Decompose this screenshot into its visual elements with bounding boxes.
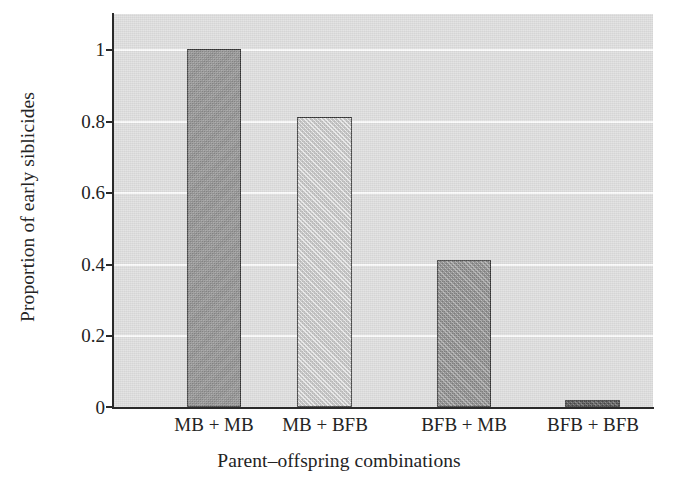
- y-axis-spine: [112, 13, 114, 409]
- y-axis-title: Proportion of early siblicides: [17, 42, 39, 372]
- x-axis-title: Parent–offspring combinations: [0, 450, 678, 472]
- bar-bfb-mb: [437, 260, 491, 407]
- x-axis-spine: [112, 407, 654, 409]
- plot-area: [113, 14, 653, 407]
- bar-chart-figure: Proportion of early siblicides 0 0.2 0.4…: [0, 0, 678, 496]
- y-tick-label-0_4: 0.4: [59, 255, 105, 274]
- bar-mb-mb: [187, 49, 241, 407]
- y-tick-label-0_2: 0.2: [59, 326, 105, 345]
- bar-bfb-bfb: [565, 400, 620, 407]
- bar-mb-bfb: [297, 117, 352, 407]
- y-axis-tick-labels: 0 0.2 0.4 0.6 0.8 1: [57, 0, 105, 496]
- x-tick-label-bfb-bfb: BFB + BFB: [508, 414, 678, 436]
- y-tick-label-0: 0: [59, 398, 105, 417]
- y-tick-label-0_6: 0.6: [59, 183, 105, 202]
- y-tick-label-1: 1: [59, 40, 105, 59]
- y-tick-label-0_8: 0.8: [59, 112, 105, 131]
